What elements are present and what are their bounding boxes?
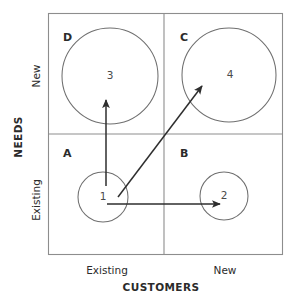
- quadrant-letter-A: A: [63, 147, 72, 160]
- quadrant-letter-D: D: [63, 31, 72, 44]
- matrix-canvas: D C A B 3 4 1 2 Existing New CUSTOMERS E…: [0, 0, 294, 304]
- x-tick-existing: Existing: [86, 264, 128, 276]
- y-tick-new: New: [30, 64, 42, 87]
- y-tick-existing: Existing: [30, 179, 42, 221]
- bubble-label-3: 3: [107, 69, 114, 81]
- quadrant-letter-C: C: [180, 31, 188, 44]
- bubble-label-4: 4: [227, 68, 234, 80]
- x-axis-title: CUSTOMERS: [123, 281, 200, 293]
- bubble-label-2: 2: [221, 189, 228, 201]
- quadrant-letter-B: B: [180, 147, 188, 160]
- x-tick-new: New: [214, 264, 237, 276]
- matrix-diagram: D C A B 3 4 1 2 Existing New CUSTOMERS E…: [0, 0, 294, 304]
- bubble-label-1: 1: [100, 190, 107, 202]
- y-axis-title: NEEDS: [12, 116, 24, 157]
